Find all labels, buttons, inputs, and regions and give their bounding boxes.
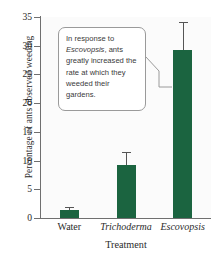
y-tick-0	[34, 218, 40, 219]
escovopsis-callout: In response to Escovopsis, ants greatly …	[58, 27, 146, 111]
error-bar-cap-trichoderma	[122, 152, 131, 153]
y-tick-15	[34, 132, 40, 133]
y-tick-10	[34, 161, 40, 162]
bar-escovopsis	[173, 50, 192, 218]
y-tick-35	[34, 17, 40, 18]
x-axis-title: Treatment	[41, 239, 211, 250]
error-bar-cap-escovopsis	[179, 22, 188, 23]
y-tick-label-15: 15	[2, 126, 32, 137]
y-tick-20	[34, 103, 40, 104]
y-tick-label-20: 20	[2, 97, 32, 108]
bar-trichoderma	[117, 165, 136, 218]
y-tick-label-10: 10	[2, 155, 32, 166]
callout-text-italic: Escovopsis	[66, 45, 104, 54]
y-axis-line	[40, 16, 41, 219]
error-bar-line-trichoderma	[126, 152, 127, 165]
y-tick-label-30: 30	[2, 40, 32, 51]
y-tick-25	[34, 74, 40, 75]
y-tick-label-0: 0	[2, 212, 32, 223]
error-bar-cap-water	[65, 207, 74, 208]
y-tick-30	[34, 46, 40, 47]
y-tick-label-35: 35	[2, 11, 32, 22]
y-tick-label-25: 25	[2, 68, 32, 79]
x-tick-label-escovopsis: Escovopsis	[154, 221, 211, 232]
error-bar-line-escovopsis	[183, 22, 184, 50]
bar-water	[60, 210, 79, 218]
x-tick-label-trichoderma: Trichoderma	[98, 221, 155, 232]
callout-text-before: In response to	[66, 34, 114, 43]
y-tick-5	[34, 189, 40, 190]
x-tick-label-water: Water	[41, 221, 98, 232]
y-tick-label-5: 5	[2, 183, 32, 194]
figure-bar-chart-ant-weeding: Percentage of ants observed weeding 0510…	[0, 0, 215, 268]
x-axis-line	[40, 218, 211, 219]
